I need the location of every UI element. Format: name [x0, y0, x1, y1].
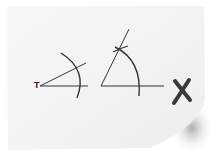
paper-sheet	[0, 0, 218, 161]
paper	[7, 6, 205, 150]
point-label-t: T	[34, 81, 40, 90]
diagram-canvas: T	[0, 0, 218, 161]
